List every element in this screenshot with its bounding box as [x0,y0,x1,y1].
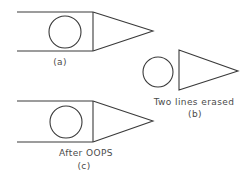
panel-b-shapes [143,50,238,90]
panel-a-triangle [93,12,153,51]
panel-c-shapes [17,101,153,142]
panel-c-circle [50,106,82,138]
panel-b-triangle [179,50,238,90]
diagram-drawing [0,0,251,181]
panel-b-circle [143,57,173,87]
panel-a-caption: (a) [53,57,67,67]
panel-a-circle [49,16,81,48]
panel-c-caption: (c) [77,161,90,171]
panel-c-triangle [93,101,153,142]
panel-b-caption: (b) [188,109,202,119]
panel-c-title: After OOPS [59,148,113,158]
panel-a-shapes [17,12,153,51]
panel-b-title: Two lines erased [154,97,235,107]
diagram-canvas: (a) Two lines erased (b) After OOPS (c) [0,0,251,181]
